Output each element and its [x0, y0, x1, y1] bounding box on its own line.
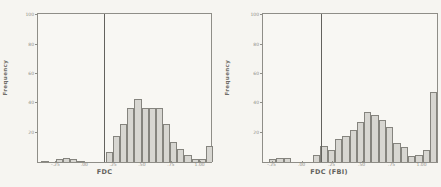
y-tick-label: 60 — [28, 71, 34, 76]
x-tick-label: .25 — [110, 162, 117, 167]
y-tick-mark — [35, 73, 37, 74]
y-tick-label: 100 — [250, 12, 259, 17]
y-tick-mark — [35, 102, 37, 103]
y-tick-mark — [260, 132, 262, 133]
x-tick-label: 1.00 — [195, 162, 205, 167]
y-tick-mark — [260, 14, 262, 15]
y-tick-label: 80 — [28, 41, 34, 46]
y-tick-label: 100 — [25, 12, 34, 17]
x-tick-label: .75 — [167, 162, 174, 167]
y-axis-label: Frequency — [2, 59, 8, 95]
y-tick-mark — [260, 102, 262, 103]
x-tick-label: .50 — [358, 162, 365, 167]
axis-tick-layer: -.25.00.25.50.751.0020406080100 — [262, 13, 436, 161]
y-tick-mark — [35, 44, 37, 45]
x-tick-label: .50 — [138, 162, 145, 167]
y-tick-label: 80 — [253, 41, 259, 46]
x-tick-label: .75 — [388, 162, 395, 167]
x-tick-label: 1.00 — [417, 162, 427, 167]
axis-tick-layer: -.25.00.25.50.751.0020406080100 — [37, 13, 210, 161]
y-tick-label: 40 — [28, 100, 34, 105]
x-tick-label: .00 — [81, 162, 88, 167]
x-tick-label: -.25 — [51, 162, 60, 167]
x-tick-label: .00 — [298, 162, 305, 167]
histogram-fdc-fbi: Frequency -.25.00.25.50.751.002040608010… — [222, 0, 441, 187]
y-axis-label: Frequency — [224, 59, 230, 95]
y-tick-label: 60 — [253, 71, 259, 76]
y-tick-mark — [260, 73, 262, 74]
y-tick-label: 40 — [253, 100, 259, 105]
scanned-figure-page: { "figure": { "description": "Two side-b… — [0, 0, 441, 187]
histogram-fdc: Frequency -.25.00.25.50.751.002040608010… — [0, 0, 220, 187]
y-tick-label: 20 — [28, 129, 34, 134]
y-tick-mark — [35, 14, 37, 15]
x-axis-label: FDC (FBI) — [242, 168, 416, 176]
y-tick-label: 20 — [253, 129, 259, 134]
y-tick-mark — [35, 132, 37, 133]
x-tick-label: .25 — [328, 162, 335, 167]
x-axis-label: FDC — [18, 168, 191, 176]
x-tick-label: -.25 — [267, 162, 276, 167]
y-tick-mark — [260, 44, 262, 45]
